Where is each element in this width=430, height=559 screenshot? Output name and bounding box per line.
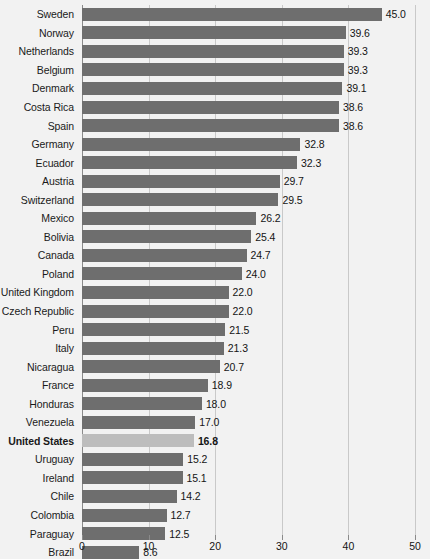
axis-tick-label-20: 20 [209, 540, 221, 552]
x-axis: 01020304050 [0, 535, 430, 559]
bar-row: Czech Republic22.0 [0, 302, 430, 321]
bar-track: 21.3 [82, 339, 430, 358]
bar-row: Switzerland29.5 [0, 190, 430, 209]
bar-row: Spain38.6 [0, 116, 430, 135]
bar-track: 18.0 [82, 394, 430, 413]
bar-track: 18.9 [82, 376, 430, 395]
bar-value: 39.3 [348, 45, 368, 57]
bar [82, 434, 194, 447]
bar-value: 29.5 [282, 194, 302, 206]
bar [82, 379, 208, 392]
bar-value: 21.5 [229, 324, 249, 336]
bar [82, 138, 300, 151]
bar-label-italy: Italy [0, 342, 74, 354]
bar-label-germany: Germany [0, 138, 74, 150]
bar-row: United Kingdom22.0 [0, 283, 430, 302]
bar-label-sweden: Sweden [0, 8, 74, 20]
bar-row: Bolivia25.4 [0, 228, 430, 247]
bar-row: Ireland15.1 [0, 469, 430, 488]
bar-value: 24.0 [246, 268, 266, 280]
bar-track: 20.7 [82, 357, 430, 376]
bar [82, 305, 229, 318]
bar-row: Germany32.8 [0, 135, 430, 154]
bar-value: 15.2 [187, 453, 207, 465]
bar-track: 45.0 [82, 5, 430, 24]
bar-row: Canada24.7 [0, 246, 430, 265]
bar-value: 39.3 [348, 64, 368, 76]
bar [82, 101, 339, 114]
bar-track: 12.7 [82, 506, 430, 525]
bar-track: 17.0 [82, 413, 430, 432]
bar [82, 212, 256, 225]
bar-row: Italy21.3 [0, 339, 430, 358]
bar-track: 22.0 [82, 302, 430, 321]
bar-row: Ecuador32.3 [0, 153, 430, 172]
bar-row: Mexico26.2 [0, 209, 430, 228]
bar [82, 286, 229, 299]
bar-track: 16.8 [82, 432, 430, 451]
bar-value: 15.1 [187, 472, 207, 484]
bar [82, 267, 242, 280]
bar-track: 15.1 [82, 469, 430, 488]
bar [82, 397, 202, 410]
bar-label-poland: Poland [0, 268, 74, 280]
bar-row: Uruguay15.2 [0, 450, 430, 469]
bar-label-uruguay: Uruguay [0, 453, 74, 465]
bar-value: 20.7 [224, 361, 244, 373]
bar-label-costa-rica: Costa Rica [0, 101, 74, 113]
bar-value: 39.6 [350, 27, 370, 39]
bar-track: 32.8 [82, 135, 430, 154]
bar [82, 453, 183, 466]
bar [82, 230, 251, 243]
bar-label-ireland: Ireland [0, 472, 74, 484]
bar-value: 45.0 [386, 8, 406, 20]
bar-track: 21.5 [82, 320, 430, 339]
bar-value: 22.0 [233, 305, 253, 317]
bar-track: 39.1 [82, 79, 430, 98]
bar-track: 22.0 [82, 283, 430, 302]
axis-tick-label-30: 30 [276, 540, 288, 552]
bar-chart: Sweden45.0Norway39.6Netherlands39.3Belgi… [0, 0, 430, 559]
bar [82, 416, 195, 429]
bar-value: 18.0 [206, 398, 226, 410]
bar-row: Chile14.2 [0, 487, 430, 506]
bar-track: 24.0 [82, 265, 430, 284]
bar-track: 26.2 [82, 209, 430, 228]
bar-label-venezuela: Venezuela [0, 416, 74, 428]
bar-track: 29.5 [82, 190, 430, 209]
bar-track: 38.6 [82, 116, 430, 135]
bar [82, 156, 297, 169]
bar-value: 17.0 [199, 416, 219, 428]
bar-value: 12.7 [171, 509, 191, 521]
bar-value: 38.6 [343, 120, 363, 132]
bar-label-norway: Norway [0, 27, 74, 39]
bar [82, 175, 280, 188]
bar-label-nicaragua: Nicaragua [0, 361, 74, 373]
bar [82, 82, 342, 95]
bar-track: 39.6 [82, 24, 430, 43]
bar-row: Nicaragua20.7 [0, 357, 430, 376]
bar-track: 14.2 [82, 487, 430, 506]
bar-track: 24.7 [82, 246, 430, 265]
axis-tick-label-40: 40 [343, 540, 355, 552]
bar-label-bolivia: Bolivia [0, 231, 74, 243]
bar [82, 193, 278, 206]
bar-rows: Sweden45.0Norway39.6Netherlands39.3Belgi… [0, 5, 430, 559]
bar [82, 360, 220, 373]
bar [82, 63, 344, 76]
bar-track: 38.6 [82, 98, 430, 117]
bar-track: 29.7 [82, 172, 430, 191]
bar-track: 15.2 [82, 450, 430, 469]
bar-value: 22.0 [233, 286, 253, 298]
bar-label-belgium: Belgium [0, 64, 74, 76]
bar-label-united-states: United States [0, 435, 74, 447]
bar-label-denmark: Denmark [0, 82, 74, 94]
bar-value: 21.3 [228, 342, 248, 354]
bar-label-switzerland: Switzerland [0, 194, 74, 206]
bar-value: 18.9 [212, 379, 232, 391]
bar-label-france: France [0, 379, 74, 391]
bar [82, 490, 177, 503]
bar [82, 249, 247, 262]
bar [82, 471, 183, 484]
bar [82, 323, 225, 336]
